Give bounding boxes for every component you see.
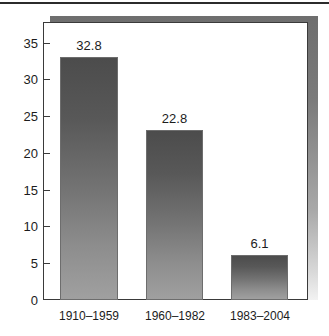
bar-chart-figure: 0 5 10 15 20 25 30 35 32.8 22.8 6.1 1910… <box>0 0 329 336</box>
y-tick-mark-15 <box>43 190 50 191</box>
y-tick-mark-35 <box>43 43 50 44</box>
y-tick-label-10: 10 <box>24 220 38 233</box>
x-axis-category-label-1: 1910–1959 <box>40 310 138 322</box>
x-axis-category-label-3: 1983–2004 <box>211 310 309 322</box>
bar-value-label-1: 32.8 <box>60 39 118 52</box>
y-tick-label-15: 15 <box>24 184 38 197</box>
y-tick-mark-5 <box>43 263 50 264</box>
top-divider-rule <box>0 2 329 4</box>
y-tick-label-30: 30 <box>24 73 38 86</box>
y-tick-label-35: 35 <box>24 37 38 50</box>
y-tick-mark-25 <box>43 116 50 117</box>
y-tick-mark-20 <box>43 153 50 154</box>
y-tick-label-5: 5 <box>31 257 38 270</box>
bar-1960-1982 <box>146 130 203 300</box>
y-tick-label-25: 25 <box>24 110 38 123</box>
y-tick-mark-30 <box>43 79 50 80</box>
x-axis-category-label-2: 1960–1982 <box>126 310 224 322</box>
bar-1983-2004 <box>231 255 288 300</box>
bar-value-label-2: 22.8 <box>146 112 203 125</box>
bar-value-label-3: 6.1 <box>231 237 288 250</box>
y-tick-mark-10 <box>43 226 50 227</box>
y-tick-label-0: 0 <box>31 294 38 307</box>
y-axis-tick-labels: 0 5 10 15 20 25 30 35 <box>0 0 38 336</box>
y-tick-label-20: 20 <box>24 147 38 160</box>
bar-1910-1959 <box>60 57 118 300</box>
